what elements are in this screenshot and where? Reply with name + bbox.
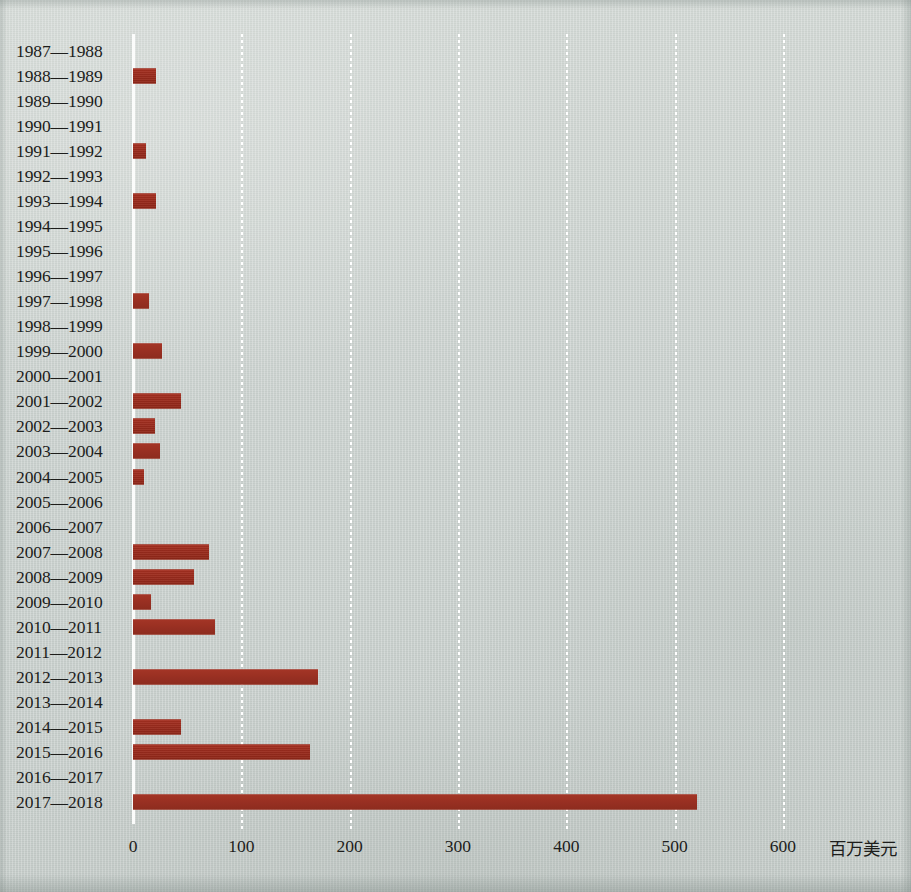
gridline-300: [458, 34, 460, 832]
category-label: 1989—1990: [16, 91, 134, 112]
gridline-500: [675, 34, 677, 832]
category-label: 2012—2013: [16, 666, 134, 687]
bar: [133, 69, 156, 84]
category-label: 1990—1991: [16, 116, 134, 137]
category-label: 1994—1995: [16, 216, 134, 237]
gridline-400: [566, 34, 568, 832]
bar: [133, 469, 144, 484]
bar: [133, 569, 194, 584]
category-label: 2014—2015: [16, 716, 134, 737]
gridline-100: [241, 34, 243, 832]
bar: [133, 194, 156, 209]
category-label: 2007—2008: [16, 541, 134, 562]
bar: [133, 794, 697, 809]
x-tick-label: 0: [129, 836, 138, 857]
chart-figure: 1987—19881988—19891989—19901990—19911991…: [0, 0, 911, 892]
bar: [133, 544, 209, 559]
category-label: 2010—2011: [16, 616, 134, 637]
category-label: 2002—2003: [16, 416, 134, 437]
x-tick-label: 200: [337, 836, 363, 857]
category-label: 1988—1989: [16, 66, 134, 87]
category-label: 1999—2000: [16, 341, 134, 362]
category-label: 1992—1993: [16, 166, 134, 187]
bar: [133, 444, 160, 459]
gridline-200: [350, 34, 352, 832]
bar: [133, 419, 155, 434]
bar: [133, 144, 146, 159]
category-label: 2013—2014: [16, 691, 134, 712]
x-axis-unit-label: 百万美元: [829, 835, 897, 860]
bar: [133, 719, 181, 734]
category-label: 1987—1988: [16, 41, 134, 62]
category-label: 2009—2010: [16, 591, 134, 612]
bar: [133, 594, 151, 609]
category-label: 1991—1992: [16, 141, 134, 162]
category-label: 2001—2002: [16, 391, 134, 412]
category-label: 2005—2006: [16, 491, 134, 512]
category-label: 2003—2004: [16, 441, 134, 462]
x-tick-label: 100: [228, 836, 254, 857]
category-label: 2017—2018: [16, 791, 134, 812]
category-label: 2015—2016: [16, 741, 134, 762]
category-label: 2004—2005: [16, 466, 134, 487]
category-label: 2011—2012: [16, 641, 134, 662]
category-label: 2000—2001: [16, 366, 134, 387]
x-tick-label: 500: [662, 836, 688, 857]
bar: [133, 619, 215, 634]
gridline-600: [783, 34, 785, 832]
x-tick-label: 400: [553, 836, 579, 857]
category-label: 1997—1998: [16, 291, 134, 312]
x-tick-label: 600: [770, 836, 796, 857]
category-label: 1996—1997: [16, 266, 134, 287]
bar: [133, 669, 318, 684]
bar: [133, 744, 310, 759]
bar: [133, 294, 149, 309]
category-label: 2006—2007: [16, 516, 134, 537]
x-tick-label: 300: [445, 836, 471, 857]
bar: [133, 344, 162, 359]
category-label: 2008—2009: [16, 566, 134, 587]
category-label: 2016—2017: [16, 766, 134, 787]
plot-area: 1987—19881988—19891989—19901990—19911991…: [0, 0, 911, 892]
category-label: 1995—1996: [16, 241, 134, 262]
bar: [133, 394, 181, 409]
category-label: 1993—1994: [16, 191, 134, 212]
category-label: 1998—1999: [16, 316, 134, 337]
